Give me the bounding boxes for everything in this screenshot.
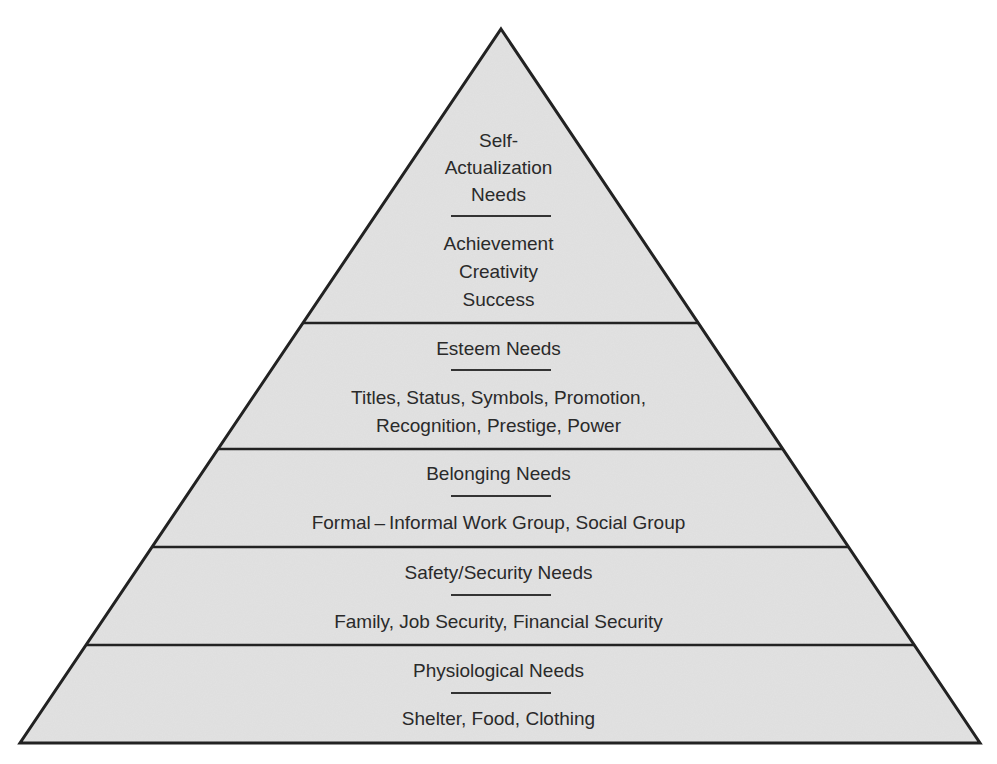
level-esteem-divider <box>451 369 551 371</box>
level-physiological-title: Physiological Needs <box>0 658 997 683</box>
level-esteem-item-line-2: Recognition, Prestige, Power <box>0 413 997 438</box>
level-self-actualization-item-line-1: Achievement <box>0 231 997 256</box>
level-belonging-title: Belonging Needs <box>0 461 997 486</box>
level-physiological-divider <box>451 692 551 694</box>
pyramid-diagram <box>0 0 997 764</box>
level-esteem-item-line-1: Titles, Status, Symbols, Promotion, <box>0 385 997 410</box>
level-self-actualization-item-line-2: Creativity <box>0 259 997 284</box>
level-safety-title: Safety/Security Needs <box>0 560 997 585</box>
level-self-actualization-divider <box>451 215 551 217</box>
level-safety-item-line-1: Family, Job Security, Financial Security <box>0 609 997 634</box>
level-safety-divider <box>451 594 551 596</box>
level-self-actualization-title-line-2: Actualization <box>0 155 997 180</box>
level-esteem-title: Esteem Needs <box>0 336 997 361</box>
level-belonging-divider <box>451 495 551 497</box>
level-self-actualization-item-line-3: Success <box>0 287 997 312</box>
level-physiological-item-line-1: Shelter, Food, Clothing <box>0 706 997 731</box>
level-self-actualization-title-line-1: Self- <box>0 128 997 153</box>
level-self-actualization-title-line-3: Needs <box>0 182 997 207</box>
level-belonging-item-line-1: Formal – Informal Work Group, Social Gro… <box>0 510 997 535</box>
